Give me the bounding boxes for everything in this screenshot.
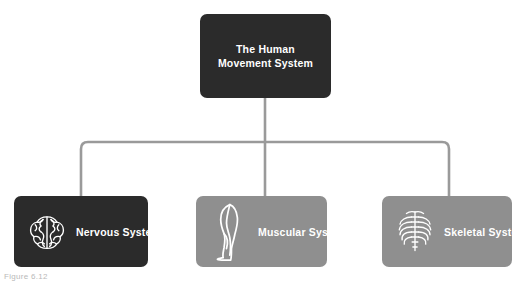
node-nervous-system-label: Nervous System: [76, 226, 161, 238]
node-muscular-system[interactable]: Muscular System: [196, 196, 327, 267]
node-skeletal-system-label: Skeletal System: [444, 226, 526, 238]
node-nervous-system[interactable]: Nervous System: [14, 196, 148, 267]
node-muscular-system-label: Muscular System: [258, 226, 347, 238]
root-node-label: The Human Movement System: [218, 42, 313, 70]
node-human-movement-system[interactable]: The Human Movement System: [200, 14, 331, 98]
leg-muscle-icon: [206, 206, 252, 258]
figure-caption: Figure 6.12: [4, 272, 48, 281]
ribcage-icon: [392, 206, 438, 258]
node-skeletal-system[interactable]: Skeletal System: [382, 196, 512, 267]
brain-icon: [24, 206, 70, 258]
diagram-canvas: The Human Movement System: [0, 0, 526, 282]
